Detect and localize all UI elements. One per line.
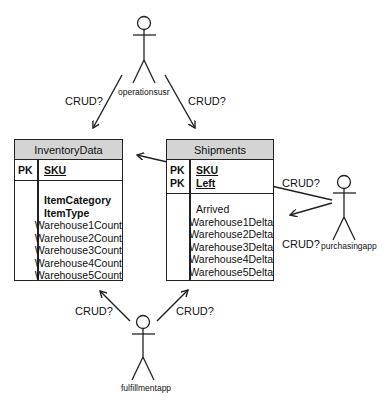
entity-title: Shipments [167, 140, 273, 160]
pk-row: PK SKU [15, 164, 122, 177]
edge-label-fulfillment-shipments: CRUD? [176, 305, 214, 317]
entity-title: InventoryData [15, 140, 122, 160]
attribute: Warehouse2Count [31, 232, 122, 245]
attribute: Warehouse5Delta [185, 266, 273, 279]
actor-label-operationsusr: operationsusr [118, 87, 170, 97]
attribute: Warehouse3Count [31, 244, 122, 257]
actor-label-fulfillmentapp: fulfillmentapp [121, 383, 171, 393]
attribute: ItemCategory [40, 194, 111, 207]
attribute: Warehouse2Delta [185, 228, 273, 241]
arrow-purchasing-to-shipments [290, 203, 332, 215]
attribute: ItemType [40, 207, 89, 220]
entity-inventorydata[interactable]: InventoryData PK SKU ItemCategory ItemTy… [14, 139, 123, 281]
edge-label-purchasing-inventory: CRUD? [282, 177, 320, 189]
actor-label-purchasingapp: purchasingapp [321, 241, 377, 251]
attribute: Warehouse1Delta [185, 216, 273, 229]
edge-label-ops-inventory: CRUD? [65, 95, 103, 107]
primary-key-section: PK SKU PK Left [167, 160, 273, 194]
attribute-section: ItemCategory ItemType Warehouse1Count Wa… [15, 181, 122, 282]
attribute: Warehouse5Count [31, 269, 122, 282]
attribute: Arrived [192, 203, 229, 216]
actor-purchasingapp-icon [333, 176, 356, 241]
pk-row: PK SKU [167, 164, 273, 177]
pk-row: PK Left [167, 177, 273, 190]
edge-label-fulfillment-inventory: CRUD? [75, 305, 113, 317]
attribute: Warehouse3Delta [185, 241, 273, 254]
attribute: Warehouse1Count [31, 219, 122, 232]
edge-label-purchasing-shipments: CRUD? [282, 238, 320, 250]
attribute-section: Arrived Warehouse1Delta Warehouse2Delta … [167, 194, 273, 278]
edge-label-ops-shipments: CRUD? [188, 95, 226, 107]
attribute: Warehouse4Count [31, 257, 122, 270]
actor-operationsusr-icon [133, 17, 156, 84]
entity-shipments[interactable]: Shipments PK SKU PK Left Arrived Warehou… [166, 139, 274, 281]
primary-key-section: PK SKU [15, 160, 122, 181]
actor-fulfillmentapp-icon [132, 316, 155, 381]
attribute: Warehouse4Delta [185, 253, 273, 266]
